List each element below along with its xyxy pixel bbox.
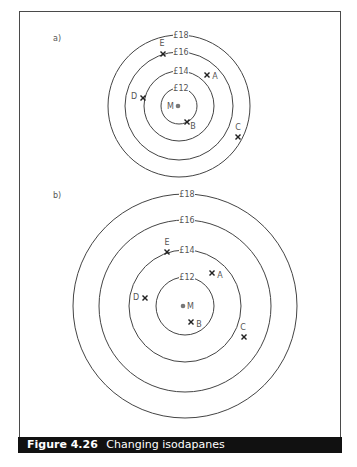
market-label: M: [187, 302, 194, 311]
panel-a: a)£12£14£16£18MABCDE: [53, 31, 250, 177]
site-label: D: [131, 92, 137, 101]
ring-cost-label: £18: [173, 31, 188, 40]
ring-cost-label: £16: [179, 216, 194, 225]
site-label: D: [133, 293, 139, 302]
panel-label: a): [53, 34, 61, 43]
market-dot-icon: [176, 104, 181, 109]
site-cross-icon: [205, 73, 210, 78]
site-label: B: [190, 122, 196, 131]
panel-label: b): [53, 191, 61, 200]
site-cross-icon: [242, 335, 247, 340]
ring-cost-label: £16: [173, 48, 188, 57]
ring-cost-label: £12: [179, 273, 194, 282]
ring-cost-label: £12: [173, 84, 188, 93]
site-cross-icon: [236, 135, 241, 140]
figure-number: Figure 4.26: [27, 438, 98, 451]
panel-b: b)£12£14£16£18MABCDE: [53, 190, 297, 418]
isodapane-diagram: a)£12£14£16£18MABCDE b)£12£14£16£18MABCD…: [0, 0, 357, 467]
site-label: A: [217, 271, 223, 280]
site-cross-icon: [189, 320, 194, 325]
site-label: B: [196, 320, 202, 329]
site-label: A: [212, 72, 218, 81]
figure-title: Changing isodapanes: [106, 438, 224, 451]
site-label: C: [240, 323, 246, 332]
market-dot-icon: [181, 304, 186, 309]
site-cross-icon: [185, 120, 190, 125]
figure-caption: Figure 4.26 Changing isodapanes: [18, 437, 342, 453]
market-label: M: [167, 102, 174, 111]
site-cross-icon: [210, 271, 215, 276]
site-cross-icon: [143, 296, 148, 301]
ring-cost-label: £14: [179, 246, 194, 255]
site-label: E: [164, 238, 169, 247]
ring-cost-label: £14: [173, 67, 188, 76]
ring-cost-label: £18: [179, 190, 194, 199]
site-label: C: [235, 123, 241, 132]
site-label: E: [159, 39, 164, 48]
